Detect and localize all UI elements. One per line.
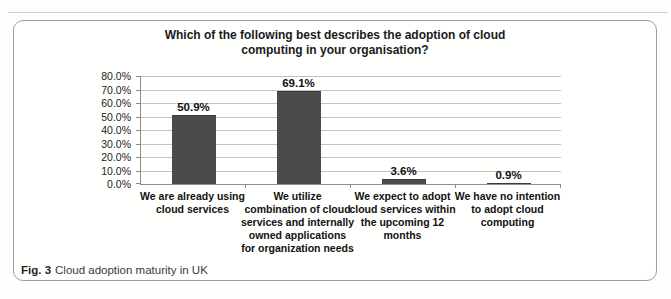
x-category-label-line: months <box>337 229 469 242</box>
bar <box>487 183 531 185</box>
y-axis-tick-label: 40.0% <box>101 124 131 136</box>
x-category-label: We expect to adoptcloud services withint… <box>350 190 455 242</box>
figure-card: Which of the following best describes th… <box>13 20 657 281</box>
y-axis-tick-label: 10.0% <box>101 165 131 177</box>
x-category-label-line: for organization needs <box>232 242 364 255</box>
x-category-label-line: We have no intention <box>442 190 574 203</box>
bar <box>382 179 426 184</box>
y-axis-tick-label: 70.0% <box>101 84 131 96</box>
bar-value-label: 3.6% <box>390 165 416 177</box>
y-axis-tick-label: 0.0% <box>107 178 131 190</box>
bar <box>277 91 321 184</box>
x-axis-tick-mark <box>350 184 351 188</box>
x-axis-tick-mark <box>455 184 456 188</box>
x-category-label-line: to adopt cloud <box>442 203 574 216</box>
figure-caption: Fig. 3Cloud adoption maturity in UK <box>21 264 208 276</box>
x-category-label-text: We have no intentionto adopt cloudcomput… <box>442 190 574 229</box>
x-category-label: We utilizecombination of cloudservices a… <box>245 190 350 255</box>
bar-slot: 3.6% <box>351 76 456 184</box>
chart-title: Which of the following best describes th… <box>135 28 535 58</box>
bar-value-label: 0.9% <box>495 169 521 181</box>
figure-caption-label: Fig. 3 <box>21 264 51 276</box>
bar-slot: 69.1% <box>246 76 351 184</box>
y-axis-tick-label: 50.0% <box>101 111 131 123</box>
y-axis-labels: 0.0%10.0%20.0%30.0%40.0%50.0%60.0%70.0%8… <box>72 76 140 184</box>
top-divider-line <box>8 12 668 13</box>
x-axis-tick-mark <box>245 184 246 188</box>
bar-slot: 0.9% <box>456 76 561 184</box>
x-axis-tick-mark <box>560 184 561 188</box>
y-axis-tick-label: 30.0% <box>101 138 131 150</box>
bar-slot: 50.9% <box>141 76 246 184</box>
plot-area: 50.9%69.1%3.6%0.9% <box>140 76 561 185</box>
bar-value-label: 50.9% <box>177 101 210 113</box>
bar-value-label: 69.1% <box>282 77 315 89</box>
y-axis-tick-label: 60.0% <box>101 97 131 109</box>
y-axis-tick-label: 20.0% <box>101 151 131 163</box>
x-category-label-line: computing <box>442 216 574 229</box>
x-category-label: We are already usingcloud services <box>140 190 245 216</box>
y-axis-tick-label: 80.0% <box>101 70 131 82</box>
figure-caption-text: Cloud adoption maturity in UK <box>55 264 208 276</box>
page: Which of the following best describes th… <box>0 0 671 299</box>
x-category-label: We have no intentionto adopt cloudcomput… <box>455 190 560 229</box>
bar <box>172 115 216 184</box>
